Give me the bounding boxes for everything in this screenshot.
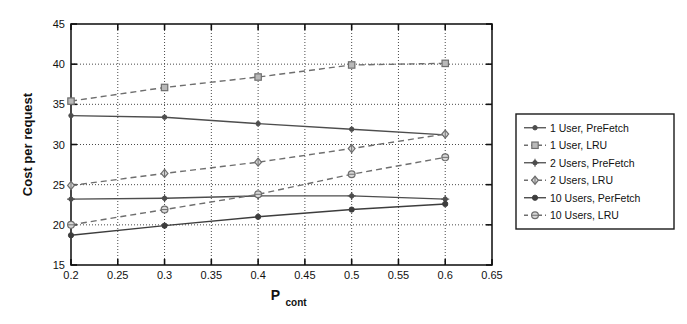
marker-filled-dot <box>532 195 537 200</box>
ytick-label: 45 <box>53 18 65 30</box>
data-point-dot <box>162 115 166 119</box>
y-axis-label: Cost per request <box>20 92 35 196</box>
ytick-label: 20 <box>53 219 65 231</box>
xtick-label: 0.2 <box>63 269 78 281</box>
ytick-label: 40 <box>53 58 65 70</box>
series-0 <box>69 113 448 137</box>
legend-label: 2 Users, PreFetch <box>550 157 635 169</box>
ytick-label: 35 <box>53 98 65 110</box>
data-point-square <box>255 74 261 80</box>
data-point-filled-dot <box>532 195 537 200</box>
data-point-star <box>348 192 356 200</box>
data-point-diamond <box>442 130 449 138</box>
xtick-label: 0.25 <box>107 269 128 281</box>
data-point-filled-dot <box>256 214 261 219</box>
marker-filled-dot <box>349 207 354 212</box>
data-point-dot <box>349 127 353 131</box>
data-point-square <box>68 98 74 104</box>
data-point-filled-dot <box>162 223 167 228</box>
x-axis-label: P <box>271 287 280 303</box>
marker-square <box>161 84 167 90</box>
ytick-label: 25 <box>53 179 65 191</box>
data-point-diamond <box>161 169 168 177</box>
xtick-label: 0.4 <box>250 269 265 281</box>
ytick-label: 30 <box>53 139 65 151</box>
legend-label: 2 Users, LRU <box>550 174 613 186</box>
data-point-dot <box>256 121 260 125</box>
data-point-diamond <box>348 145 355 153</box>
plot-area-wrapper: 152025303540450.20.250.30.350.40.450.50.… <box>0 0 687 324</box>
data-point-circle <box>532 212 539 219</box>
xtick-label: 0.55 <box>388 269 409 281</box>
tick-labels: 152025303540450.20.250.30.350.40.450.50.… <box>53 18 503 281</box>
data-point-diamond <box>68 181 75 189</box>
marker-dot <box>162 115 166 119</box>
marker-dot <box>69 113 73 117</box>
legend: 1 User, PreFetch1 User, LRU2 Users, PreF… <box>516 114 674 229</box>
marker-square <box>532 142 538 148</box>
chart-figure: 152025303540450.20.250.30.350.40.450.50.… <box>0 0 687 324</box>
legend-label: 1 User, PreFetch <box>550 122 629 134</box>
marker-square <box>255 74 261 80</box>
marker-square <box>68 98 74 104</box>
data-point-filled-dot <box>443 201 448 206</box>
data-point-square <box>442 60 448 66</box>
xtick-label: 0.65 <box>481 269 502 281</box>
marker-dot <box>533 126 537 130</box>
xtick-label: 0.5 <box>344 269 359 281</box>
data-point-circle <box>348 171 355 178</box>
data-point-filled-dot <box>68 233 73 238</box>
data-point-dot <box>69 113 73 117</box>
data-point-square <box>161 84 167 90</box>
marker-filled-dot <box>256 214 261 219</box>
data-point-square <box>348 62 354 68</box>
legend-label: 10 Users, PerFetch <box>550 192 641 204</box>
data-point-diamond <box>255 158 262 166</box>
data-point-circle <box>255 191 262 198</box>
marker-filled-dot <box>443 201 448 206</box>
xtick-label: 0.3 <box>157 269 172 281</box>
xtick-label: 0.6 <box>438 269 453 281</box>
data-point-dot <box>533 126 537 130</box>
xtick-label: 0.45 <box>294 269 315 281</box>
data-point-star <box>161 194 169 202</box>
legend-label: 1 User, LRU <box>550 139 607 151</box>
data-point-square <box>532 142 538 148</box>
line-chart-svg: 152025303540450.20.250.30.350.40.450.50.… <box>0 0 687 324</box>
marker-filled-dot <box>68 233 73 238</box>
data-point-circle <box>442 154 449 161</box>
marker-square <box>348 62 354 68</box>
marker-dot <box>256 121 260 125</box>
data-point-circle <box>161 206 168 213</box>
series-4 <box>68 201 447 238</box>
legend-label: 10 Users, LRU <box>550 209 619 221</box>
marker-filled-dot <box>162 223 167 228</box>
marker-square <box>442 60 448 66</box>
marker-dot <box>349 127 353 131</box>
x-axis-label-subscript: cont <box>286 297 308 308</box>
data-point-circle <box>68 221 75 228</box>
xtick-label: 0.35 <box>201 269 222 281</box>
data-point-filled-dot <box>349 207 354 212</box>
data-point-star <box>67 195 75 203</box>
